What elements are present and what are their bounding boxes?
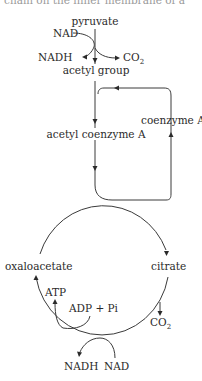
arrow-up-coenzyme-icon [169, 132, 174, 137]
label-co2-bottom: CO2 [150, 316, 171, 331]
label-acetyl-group: acetyl group [63, 64, 130, 76]
label-oxaloacetate: oxaloacetate [5, 260, 72, 272]
arrow-to-atp-icon [53, 299, 58, 304]
label-citrate: citrate [151, 260, 186, 272]
label-pyruvate: pyruvate [71, 15, 118, 27]
label-nad-bottom: NAD [104, 360, 129, 372]
coenzyme-loop [95, 81, 171, 200]
arrow-left-top-icon [114, 86, 119, 91]
arrow-to-nadh-bottom-icon [77, 352, 82, 358]
krebs-cycle-diagram: chain on the inner membrane of a pyruvat… [0, 0, 202, 381]
arrow-to-citrate-icon [164, 251, 169, 256]
arrow-to-oxaloacetate-icon [34, 275, 39, 280]
cut-off-caption: chain on the inner membrane of a [4, 0, 185, 6]
arrow-down-lower-icon [93, 166, 98, 171]
bottom-nad-curve [80, 338, 115, 358]
label-adp-pi: ADP + Pi [68, 302, 119, 314]
arrow-to-nadh-icon [82, 55, 87, 60]
label-nadh-top: NADH [38, 51, 72, 63]
arrow-to-co2-icon [115, 56, 120, 61]
label-acetyl-coenzyme-a: acetyl coenzyme A [47, 128, 146, 140]
label-nadh-bottom: NADH [64, 360, 98, 372]
cycle-arc-top [40, 206, 166, 254]
label-coenzyme-a: coenzyme A [141, 114, 202, 126]
co2-curve [95, 48, 116, 58]
label-atp: ATP [44, 286, 66, 298]
arrow-down-upper-icon [93, 119, 98, 124]
arrow-to-acetyl-icon [93, 58, 98, 63]
